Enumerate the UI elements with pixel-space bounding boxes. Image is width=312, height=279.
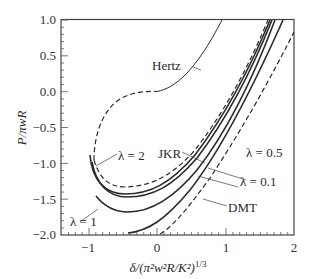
label-lambda-2: λ = 2 [118, 148, 145, 163]
y-tick-label: 1.0 [40, 12, 56, 27]
y-tick-label: −2.0 [32, 227, 56, 242]
x-tick-label: −1 [81, 240, 95, 255]
label-lambda-0-5: λ = 0.5 [246, 145, 282, 160]
y-tick-label: −1.5 [32, 192, 56, 207]
y-tick-labels: 1.0 0.5 0.0 −0.5 −1.0 −1.5 −2.0 [32, 12, 56, 242]
label-dmt: DMT [228, 200, 257, 215]
label-hertz: Hertz [152, 58, 181, 73]
leader-lambda-2 [96, 154, 117, 166]
x-ticks [69, 228, 288, 235]
x-tick-label: 0 [154, 240, 161, 255]
leader-dmt [203, 199, 227, 206]
curve-lambda-2 [90, 20, 270, 194]
curve-lambda-0-1 [128, 20, 283, 233]
leader-hertz [193, 67, 201, 70]
curve-lambda-0-5 [92, 20, 272, 197]
y-tick-label: −0.5 [32, 120, 56, 135]
x-tick-label: 1 [223, 240, 230, 255]
label-jkr: JKR [158, 146, 181, 161]
y-ticks [61, 20, 68, 228]
x-axis-title: δ/(π²w²R/K²)1/3 [130, 259, 207, 275]
x-tick-label: 2 [291, 240, 298, 255]
y-tick-label: 0.0 [40, 84, 56, 99]
chart: 1.0 0.5 0.0 −0.5 −1.0 −1.5 −2.0 −1 0 1 2… [0, 0, 312, 279]
y-axis-title: P/πwR [14, 111, 29, 147]
x-tick-labels: −1 0 1 2 [81, 240, 297, 255]
curve-hertz [157, 20, 222, 92]
label-lambda-0-1: λ = 0.1 [240, 174, 276, 189]
y-tick-label: −1.0 [32, 156, 56, 171]
y-tick-label: 0.5 [40, 48, 56, 63]
label-lambda-1: λ = 1 [70, 214, 97, 229]
